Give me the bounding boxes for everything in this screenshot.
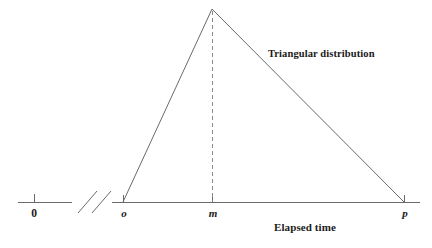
distribution-falling-limb bbox=[212, 9, 404, 202]
distribution-rising-limb bbox=[123, 9, 212, 202]
x-axis-title: Elapsed time bbox=[274, 222, 336, 233]
triangular-distribution-figure: 0 o m p Triangular distribution Elapsed … bbox=[0, 0, 432, 248]
axis-label-m: m bbox=[209, 208, 218, 219]
axis-label-zero: 0 bbox=[31, 208, 37, 220]
axis-label-p: p bbox=[402, 208, 408, 219]
axis-label-o: o bbox=[121, 208, 127, 219]
distribution-annotation-label: Triangular distribution bbox=[268, 49, 375, 60]
axis-break-slash-second bbox=[92, 191, 111, 213]
axis-break-slash-first bbox=[78, 191, 97, 213]
